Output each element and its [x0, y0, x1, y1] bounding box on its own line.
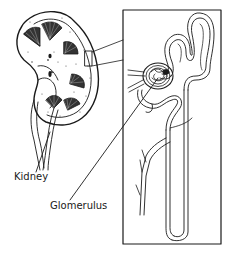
kidney-label: Kidney: [14, 172, 48, 182]
glomerulus-label: Glomerulus: [50, 201, 107, 211]
glomerulus-pointer-line: [70, 78, 158, 200]
nephron-inset-box: [123, 10, 221, 244]
glomerulus: [128, 63, 173, 92]
kidney-nephron-diagram: Kidney Glomerulus: [0, 0, 235, 253]
